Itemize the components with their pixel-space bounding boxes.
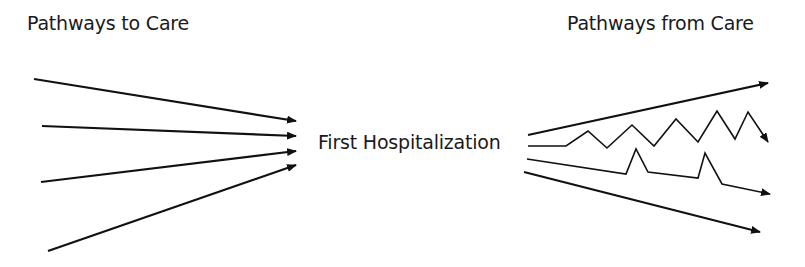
zigzag-pathway-arrow [528, 111, 768, 148]
spiked-pathway-arrow [527, 149, 770, 194]
incoming-arrow-4 [48, 165, 296, 251]
incoming-arrow-1 [34, 79, 296, 121]
pathways-diagram [0, 0, 805, 267]
declining-pathway-arrow [524, 172, 760, 232]
incoming-arrows-group [34, 79, 296, 251]
outgoing-paths-group [524, 83, 770, 232]
rising-pathway-arrow [528, 83, 768, 135]
incoming-arrow-2 [42, 126, 296, 136]
